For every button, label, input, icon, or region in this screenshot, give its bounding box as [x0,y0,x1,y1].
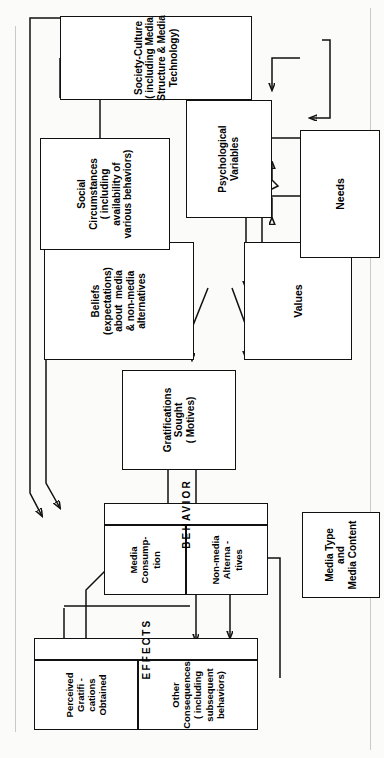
perceived-gratifications-line-1: Gratifi - [75,678,86,712]
non-media-alternatives-line-1: Alterna - [221,541,232,580]
society-culture-line-0: Society-Culture [133,21,145,95]
node-psychological-variables[interactable]: Psychological Variables [186,100,272,218]
society-culture-line-1: ( including Media [144,17,156,99]
values-line-0: Values [292,284,304,317]
node-other-consequences[interactable]: Other Consequences ( including subsequen… [138,660,258,730]
other-consequences-line-2: ( including [192,671,203,719]
society-culture-line-3: Technology) [168,29,180,88]
social-circumstances-line-4: various behaviors) [122,150,134,239]
band-behavior-label: BEHAVIOR [181,479,192,549]
beliefs-line-3: & non-media [125,271,137,332]
gratifications-sought-line-2: ( Motives) [185,397,197,444]
perceived-gratifications-line-3: Obtained [97,674,108,715]
perceived-gratifications-line-0: Perceived [64,673,75,718]
media-type-line-0: Media Type [324,528,336,582]
media-consumption-line-1: Consump- [139,537,150,584]
beliefs-line-4: alternatives [136,273,148,329]
gratifications-sought-line-1: Sought [173,403,185,437]
beliefs-line-1: (expectations) [102,267,114,335]
band-effects-label: EFFECTS [141,619,152,680]
media-consumption-line-2: tion [151,551,162,568]
psych-variables-line-0: Psychological [217,125,229,192]
node-beliefs[interactable]: Beliefs (expectations) about media & non… [44,242,194,360]
gratifications-sought-line-0: Gratifications [162,388,174,452]
social-circumstances-line-1: Circumstances [88,158,100,230]
social-circumstances-line-0: Social [76,179,88,208]
band-behavior: BEHAVIOR [104,503,268,525]
non-media-alternatives-line-0: Non-media [210,535,221,584]
node-non-media-alternatives[interactable]: Non-media Alterna - tives [186,525,268,595]
other-consequences-line-0: Other [170,682,181,707]
node-media-type-and-content[interactable]: Media Type and Media Content [302,512,380,598]
psych-variables-line-1: Variables [229,137,241,181]
society-culture-line-2: Structure & Media [156,15,168,101]
node-media-consumption[interactable]: Media Consump- tion [104,525,186,595]
beliefs-line-2: about media [113,270,125,332]
node-gratifications-sought[interactable]: Gratifications Sought ( Motives) [122,370,236,470]
media-type-line-1: and [335,546,347,564]
non-media-alternatives-line-2: tives [233,549,244,571]
uses-gratifications-diagram: Perceived Gratifi - cations Obtained Oth… [0,0,384,758]
node-needs[interactable]: Needs [300,130,380,258]
other-consequences-line-1: Consequences [181,661,192,729]
other-consequences-line-4: behaviors) [215,671,226,719]
diagram-rotation-wrapper: Perceived Gratifi - cations Obtained Oth… [0,0,384,758]
media-consumption-line-0: Media [128,547,139,574]
node-values[interactable]: Values [244,242,352,360]
media-type-line-2: Media Content [347,521,359,590]
node-social-circumstances[interactable]: Social Circumstances ( including availab… [40,138,170,250]
needs-line-0: Needs [334,178,346,210]
social-circumstances-line-2: ( including [99,169,111,220]
other-consequences-line-3: subsequent [204,668,215,721]
node-society-culture[interactable]: Society-Culture ( including Media Struct… [60,16,252,100]
perceived-gratifications-line-2: cations [86,678,97,711]
node-perceived-gratifications[interactable]: Perceived Gratifi - cations Obtained [34,660,138,730]
band-effects: EFFECTS [34,638,258,660]
social-circumstances-line-3: availability of [111,162,123,225]
beliefs-line-0: Beliefs [90,285,102,318]
